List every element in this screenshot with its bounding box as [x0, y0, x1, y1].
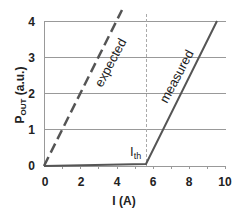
svg-text:6: 6 — [150, 175, 157, 189]
svg-text:0: 0 — [28, 159, 35, 173]
svg-text:10: 10 — [218, 175, 232, 189]
gridlines — [44, 22, 226, 130]
y-axis-label: POUT (a.u.) — [13, 67, 28, 124]
svg-text:3: 3 — [28, 51, 35, 65]
annotation-measured: measured — [156, 47, 196, 105]
svg-text:2: 2 — [28, 87, 35, 101]
x-tick-labels: 0 2 4 6 8 10 — [42, 175, 232, 189]
annotation-ith: Ith — [130, 144, 141, 161]
x-axis-label: I (A) — [112, 194, 135, 208]
svg-text:POUT (a.u.): POUT (a.u.) — [13, 67, 28, 124]
annotation-expected: expected — [91, 36, 129, 90]
svg-text:4: 4 — [28, 15, 35, 29]
axes — [44, 21, 226, 169]
series-expected — [44, 10, 122, 166]
svg-text:2: 2 — [78, 175, 85, 189]
y-tick-labels: 0 1 2 3 4 — [28, 15, 35, 173]
svg-text:0: 0 — [42, 175, 49, 189]
svg-text:8: 8 — [186, 175, 193, 189]
svg-text:4: 4 — [114, 175, 121, 189]
svg-text:1: 1 — [28, 123, 35, 137]
chart: 0 1 2 3 4 0 2 4 6 8 10 I (A) POUT (a.u.)… — [0, 0, 244, 215]
chart-svg: 0 1 2 3 4 0 2 4 6 8 10 I (A) POUT (a.u.)… — [0, 0, 244, 215]
